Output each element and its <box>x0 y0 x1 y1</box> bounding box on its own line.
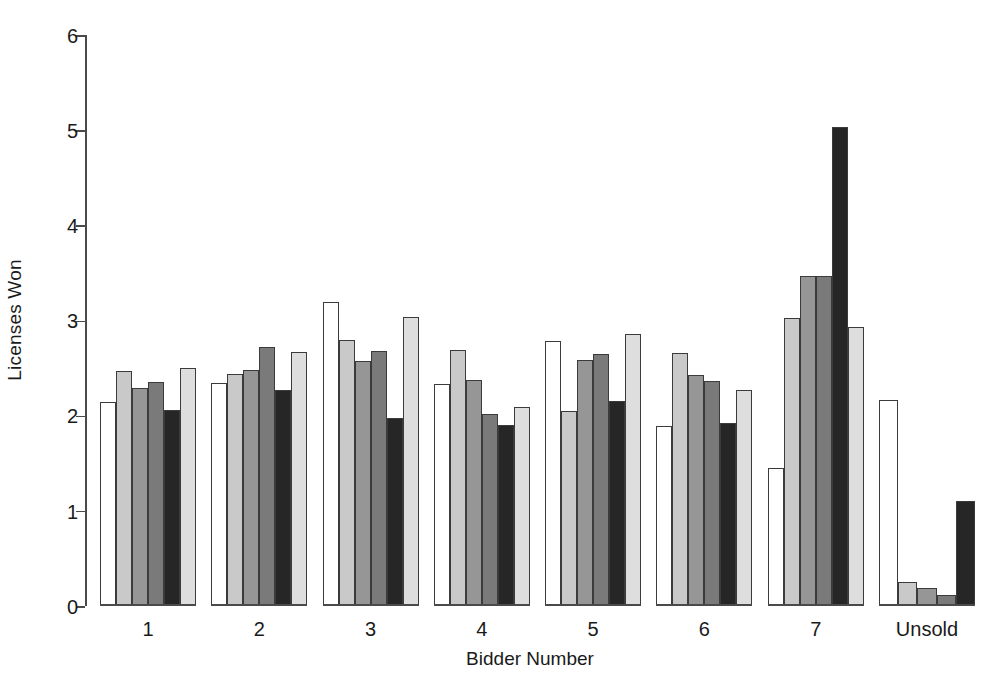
bar <box>593 354 609 604</box>
y-axis-tick-label: 6 <box>67 24 78 47</box>
bar <box>132 388 148 604</box>
bar-group: 3 <box>323 35 419 606</box>
group-bars <box>656 35 752 604</box>
bar <box>956 501 975 605</box>
group-bars <box>211 35 307 604</box>
bar <box>148 382 164 605</box>
bar <box>355 361 371 605</box>
bar <box>577 360 593 605</box>
bar-group: 7 <box>768 35 864 606</box>
bar-group: 6 <box>656 35 752 606</box>
bar <box>800 276 816 604</box>
bar <box>704 381 720 605</box>
x-axis-title: Bidder Number <box>85 648 975 670</box>
bar <box>387 418 403 605</box>
bar <box>275 390 291 604</box>
bar <box>323 302 339 605</box>
plot-area: 0123456 1234567Unsold <box>85 35 975 606</box>
group-baseline <box>323 604 419 606</box>
bar-group: Unsold <box>879 35 975 606</box>
bar <box>116 371 132 604</box>
group-baseline <box>434 604 530 606</box>
y-axis-tick-label: 0 <box>67 595 78 618</box>
x-axis-tick-label: 6 <box>699 618 710 641</box>
y-axis-tick-label: 4 <box>67 215 78 238</box>
y-axis-tick-label: 1 <box>67 500 78 523</box>
bar <box>164 410 180 604</box>
x-axis-tick-label: Unsold <box>896 618 958 641</box>
bar <box>937 595 956 605</box>
group-baseline <box>656 604 752 606</box>
bar <box>466 380 482 605</box>
y-axis-spine <box>85 35 87 606</box>
bar <box>736 390 752 604</box>
bar <box>688 375 704 604</box>
bar <box>339 340 355 605</box>
bar <box>434 384 450 605</box>
y-axis-tick-label: 2 <box>67 405 78 428</box>
bar-group: 5 <box>545 35 641 606</box>
bar <box>100 402 116 605</box>
bar <box>514 407 530 604</box>
x-axis-tick-label: 1 <box>142 618 153 641</box>
y-axis-title: Licenses Won <box>0 0 30 697</box>
bar <box>848 327 864 605</box>
bar <box>561 411 577 604</box>
group-bars <box>100 35 196 604</box>
bar-group: 2 <box>211 35 307 606</box>
bar <box>498 425 514 605</box>
group-baseline <box>879 604 975 606</box>
x-axis-tick-label: 7 <box>810 618 821 641</box>
bar <box>917 588 936 604</box>
bar <box>672 353 688 604</box>
group-bars <box>434 35 530 604</box>
bar-group: 1 <box>100 35 196 606</box>
bar <box>879 400 898 605</box>
bar <box>243 370 259 604</box>
bar <box>832 127 848 605</box>
bar <box>180 368 196 604</box>
bar-chart: Licenses Won 0123456 1234567Unsold Bidde… <box>0 0 985 697</box>
y-axis-title-text: Licenses Won <box>4 259 26 380</box>
group-baseline <box>100 604 196 606</box>
bar <box>259 347 275 605</box>
x-axis-title-text: Bidder Number <box>466 648 594 669</box>
group-baseline <box>545 604 641 606</box>
group-bars <box>768 35 864 604</box>
bar <box>609 401 625 605</box>
group-bars <box>323 35 419 604</box>
bar <box>816 276 832 604</box>
bar <box>291 352 307 604</box>
bar <box>211 383 227 605</box>
x-axis-tick-label: 2 <box>254 618 265 641</box>
bar-group: 4 <box>434 35 530 606</box>
group-bars <box>545 35 641 604</box>
bar <box>482 414 498 604</box>
bar <box>720 423 736 605</box>
bar <box>545 341 561 605</box>
y-axis-tick-label: 5 <box>67 119 78 142</box>
group-baseline <box>768 604 864 606</box>
x-axis-tick-label: 3 <box>365 618 376 641</box>
x-axis-tick-label: 4 <box>476 618 487 641</box>
bar <box>784 318 800 604</box>
y-axis-tick-label: 3 <box>67 310 78 333</box>
bar <box>768 468 784 604</box>
group-bars <box>879 35 975 604</box>
bar <box>450 350 466 604</box>
bar <box>625 334 641 604</box>
bar <box>371 351 387 604</box>
bar <box>403 317 419 604</box>
bar <box>227 374 243 604</box>
bar <box>656 426 672 604</box>
x-axis-tick-label: 5 <box>588 618 599 641</box>
group-baseline <box>211 604 307 606</box>
bar <box>898 582 917 605</box>
